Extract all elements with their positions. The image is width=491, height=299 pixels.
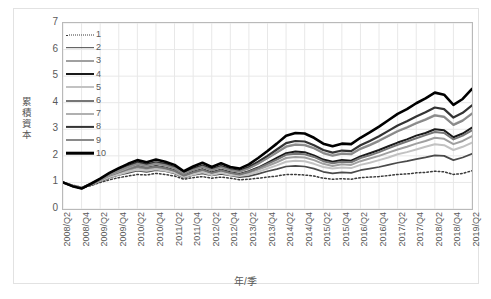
x-tick-label: 2008/Q2 — [63, 212, 72, 247]
chart-figure: 累積資本 76543210 12345678910 2008/Q22008/Q4… — [0, 0, 491, 299]
legend-label: 8 — [96, 122, 101, 131]
legend-label: 3 — [96, 56, 101, 65]
plot-svg — [63, 23, 472, 209]
x-tick-label: 2014/Q2 — [286, 212, 295, 247]
x-tick-label: 2011/Q4 — [193, 212, 202, 246]
legend-label: 2 — [96, 43, 101, 52]
legend-item-10[interactable]: 10 — [66, 147, 108, 160]
legend-label: 5 — [96, 83, 101, 92]
legend-swatch-10 — [66, 148, 94, 158]
x-tick-label: 2009/Q4 — [119, 212, 128, 247]
legend-label: 9 — [96, 136, 101, 145]
legend-swatch-6 — [66, 96, 94, 106]
x-tick-label: 2016/Q4 — [379, 212, 388, 247]
legend-label: 10 — [96, 149, 106, 158]
plot-area — [62, 22, 473, 210]
gridlines — [63, 23, 472, 209]
legend-label: 1 — [96, 30, 101, 39]
legend-swatch-4 — [66, 69, 94, 79]
x-tick-label: 2013/Q4 — [268, 212, 277, 247]
legend-item-3[interactable]: 3 — [66, 54, 108, 67]
y-axis-ticks: 76543210 — [36, 22, 58, 210]
y-tick-label: 7 — [52, 17, 58, 27]
y-tick-label: 1 — [52, 176, 58, 186]
chart-legend: 12345678910 — [64, 26, 110, 162]
x-tick-label: 2009/Q2 — [100, 212, 109, 247]
y-axis-title: 累積資本 — [20, 96, 34, 140]
legend-label: 4 — [96, 70, 101, 79]
x-tick-label: 2010/Q4 — [156, 212, 165, 247]
legend-label: 7 — [96, 109, 101, 118]
y-tick-label: 2 — [52, 150, 58, 160]
legend-item-4[interactable]: 4 — [66, 68, 108, 81]
x-tick-label: 2015/Q2 — [323, 212, 332, 247]
x-tick-label: 2018/Q4 — [453, 212, 462, 247]
x-tick-label: 2016/Q2 — [360, 212, 369, 247]
legend-swatch-3 — [66, 56, 94, 66]
x-tick-label: 2012/Q4 — [230, 212, 239, 247]
y-tick-label: 5 — [52, 70, 58, 80]
legend-item-5[interactable]: 5 — [66, 81, 108, 94]
x-tick-label: 2008/Q4 — [82, 212, 91, 247]
x-tick-label: 2018/Q2 — [435, 212, 444, 247]
x-tick-label: 2015/Q4 — [342, 212, 351, 247]
x-tick-label: 2010/Q2 — [137, 212, 146, 247]
legend-item-8[interactable]: 8 — [66, 120, 108, 133]
x-tick-label: 2011/Q2 — [175, 212, 184, 246]
x-axis-ticks: 2008/Q22008/Q42009/Q22009/Q42010/Q22010/… — [62, 212, 473, 268]
y-tick-label: 0 — [52, 203, 58, 213]
x-tick-label: 2017/Q4 — [416, 212, 425, 247]
x-tick-label: 2019/Q2 — [472, 212, 481, 247]
x-tick-label: 2013/Q2 — [249, 212, 258, 247]
legend-item-6[interactable]: 6 — [66, 94, 108, 107]
legend-swatch-1 — [66, 30, 94, 40]
x-tick-label: 2014/Q4 — [305, 212, 314, 247]
legend-swatch-2 — [66, 43, 94, 53]
legend-swatch-7 — [66, 109, 94, 119]
y-tick-label: 4 — [52, 97, 58, 107]
legend-item-9[interactable]: 9 — [66, 134, 108, 147]
x-tick-label: 2012/Q2 — [212, 212, 221, 247]
x-tick-label: 2017/Q2 — [398, 212, 407, 247]
legend-item-7[interactable]: 7 — [66, 107, 108, 120]
legend-item-2[interactable]: 2 — [66, 41, 108, 54]
y-tick-label: 3 — [52, 123, 58, 133]
x-axis-title: 年/季 — [0, 273, 491, 288]
legend-swatch-9 — [66, 135, 94, 145]
legend-label: 6 — [96, 96, 101, 105]
legend-item-1[interactable]: 1 — [66, 28, 108, 41]
legend-swatch-5 — [66, 82, 94, 92]
legend-swatch-8 — [66, 122, 94, 132]
y-tick-label: 6 — [52, 44, 58, 54]
